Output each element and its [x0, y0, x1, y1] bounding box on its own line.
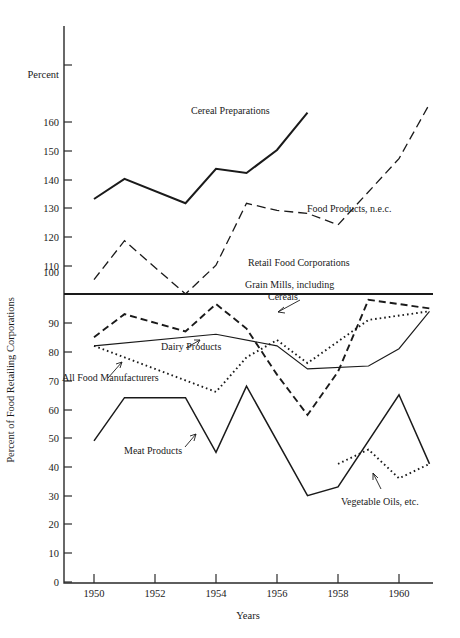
- x-tick-labels: 1950 1952 1954 1956 1958 1960: [84, 588, 410, 599]
- label-meat-products: Meat Products: [124, 445, 182, 456]
- label-vegetable-oils: Vegetable Oils, etc.: [341, 496, 419, 507]
- y-tick-labels: 0 10 20 30 40 50 60 70 80 90 100 110 120…: [43, 117, 59, 588]
- series-line-meat-products: [94, 386, 430, 495]
- y-label-90: 90: [49, 318, 60, 329]
- y-tick-marks: [64, 65, 72, 582]
- label-grain-mills-line1: Grain Mills, including: [245, 279, 334, 290]
- y-label-150: 150: [43, 146, 59, 157]
- y-label-130: 130: [43, 203, 59, 214]
- x-axis-title: Years: [236, 610, 259, 621]
- y-label-50: 50: [49, 433, 60, 444]
- percent-caption: Percent: [28, 69, 60, 80]
- y-label-80: 80: [49, 347, 60, 358]
- label-cereal-preparations: Cereal Preparations: [191, 105, 270, 116]
- x-label-1956: 1956: [267, 588, 288, 599]
- x-tick-marks: [94, 574, 399, 583]
- series-layer: [64, 104, 433, 496]
- chart-figure: 0 10 20 30 40 50 60 70 80 90 100 110 120…: [0, 0, 460, 638]
- label-food-products-nec: Food Products, n.e.c.: [307, 203, 391, 214]
- series-line-cereal-preparations: [94, 113, 308, 204]
- annotation-leaders: [108, 300, 381, 489]
- y-label-10: 10: [49, 548, 60, 559]
- series-line-vegetable-oils-etc: [338, 450, 430, 479]
- x-label-1960: 1960: [389, 588, 410, 599]
- y-label-30: 30: [49, 491, 60, 502]
- vegoil-leader: [373, 473, 381, 489]
- label-dairy-products: Dairy Products: [161, 341, 221, 352]
- y-label-70: 70: [49, 376, 60, 387]
- y-label-110: 110: [44, 261, 59, 272]
- y-label-120: 120: [43, 232, 59, 243]
- x-label-1950: 1950: [84, 588, 105, 599]
- y-label-140: 140: [43, 175, 59, 186]
- label-grain-mills-line2: Cereals: [268, 291, 298, 302]
- label-retail-food-corps: Retail Food Corporations: [248, 257, 350, 268]
- x-label-1954: 1954: [206, 588, 228, 599]
- y-label-20: 20: [49, 519, 60, 530]
- y-label-60: 60: [49, 405, 60, 416]
- x-label-1958: 1958: [328, 588, 349, 599]
- line-chart-svg: 0 10 20 30 40 50 60 70 80 90 100 110 120…: [0, 0, 460, 638]
- x-label-1952: 1952: [145, 588, 166, 599]
- label-all-food-manufacturers: All Food Manufacturers: [62, 372, 159, 383]
- y-label-40: 40: [49, 462, 60, 473]
- y-label-160: 160: [43, 117, 59, 128]
- y-label-0: 0: [54, 577, 59, 588]
- y-axis-title: Percent of Food Retailing Corporations: [5, 297, 16, 463]
